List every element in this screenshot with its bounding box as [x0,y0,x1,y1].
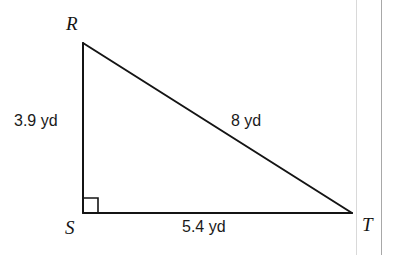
page-edge-line-outer [381,0,382,255]
triangle-figure [0,0,397,255]
side-length-label-st: 5.4 yd [182,219,226,235]
side-length-label-rs: 3.9 yd [14,113,58,129]
vertex-label-t: T [362,215,373,234]
vertex-label-s: S [65,218,75,237]
side-rt-hypotenuse [83,43,352,213]
right-angle-marker-icon [83,198,98,213]
side-length-label-rt: 8 yd [231,113,261,129]
page-edge-line-inner [356,0,357,255]
vertex-label-r: R [66,14,78,33]
